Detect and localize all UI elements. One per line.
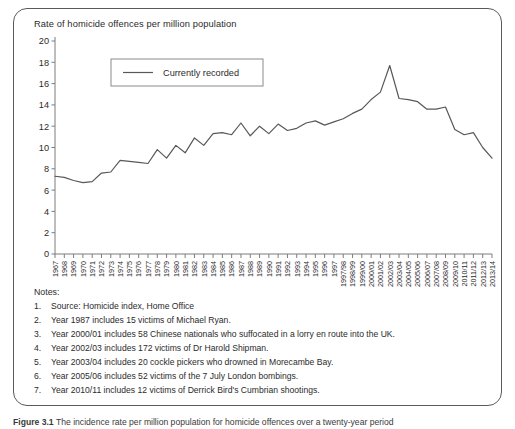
x-tick-label: 2013/14 bbox=[488, 261, 497, 287]
figure-caption-label: Figure 3.1 bbox=[13, 417, 54, 427]
svg-text:8: 8 bbox=[44, 164, 49, 174]
note-text: Year 2005/06 includes 52 victims of the … bbox=[51, 370, 486, 384]
x-tick-label: 1989 bbox=[255, 261, 264, 277]
note-number: 2. bbox=[34, 314, 51, 328]
x-tick-label: 1987 bbox=[237, 261, 246, 277]
x-tick-label: 1974 bbox=[116, 261, 125, 277]
svg-text:10: 10 bbox=[39, 143, 49, 153]
x-tick-label: 2006/07 bbox=[423, 261, 432, 287]
note-number: 1. bbox=[34, 300, 51, 314]
x-tick-label: 1998/99 bbox=[348, 261, 357, 287]
x-tick-label: 1979 bbox=[162, 261, 171, 277]
note-number: 5. bbox=[34, 356, 51, 370]
note-text: Year 1987 includes 15 victims of Michael… bbox=[51, 314, 486, 328]
x-tick-label: 1976 bbox=[134, 261, 143, 277]
x-tick-label: 2000/01 bbox=[367, 261, 376, 287]
figure-panel: Rate of homicide offences per million po… bbox=[13, 8, 502, 406]
line-chart-svg: 02468101214161820 1967196819691970197119… bbox=[14, 9, 503, 299]
x-tick-label: 1968 bbox=[60, 261, 69, 277]
x-tick-label: 1978 bbox=[153, 261, 162, 277]
svg-text:2: 2 bbox=[44, 228, 49, 238]
x-tick-label: 2003/04 bbox=[395, 261, 404, 287]
x-tick-label: 1971 bbox=[88, 261, 97, 277]
x-tick-label: 1991 bbox=[274, 261, 283, 277]
note-item: 1.Source: Homicide index, Home Office bbox=[34, 300, 486, 314]
note-item: 6.Year 2005/06 includes 52 victims of th… bbox=[34, 370, 486, 384]
note-number: 4. bbox=[34, 342, 51, 356]
notes-list: 1.Source: Homicide index, Home Office2.Y… bbox=[34, 300, 486, 397]
chart-legend: Currently recorded bbox=[111, 59, 263, 86]
x-tick-label: 2007/08 bbox=[432, 261, 441, 287]
x-tick-label: 1997 bbox=[330, 261, 339, 277]
x-tick-label: 1995 bbox=[311, 261, 320, 277]
notes-section: Notes: 1.Source: Homicide index, Home Of… bbox=[34, 285, 486, 398]
x-tick-label: 1967 bbox=[51, 261, 60, 277]
y-axis: 02468101214161820 bbox=[39, 36, 55, 259]
note-number: 6. bbox=[34, 370, 51, 384]
x-tick-label: 1975 bbox=[125, 261, 134, 277]
x-tick-label: 2012/13 bbox=[479, 261, 488, 287]
x-tick-label: 2004/05 bbox=[404, 261, 413, 287]
note-item: 4.Year 2002/03 includes 172 victims of D… bbox=[34, 342, 486, 356]
svg-text:14: 14 bbox=[39, 100, 49, 110]
svg-text:4: 4 bbox=[44, 207, 49, 217]
x-tick-label: 1992 bbox=[283, 261, 292, 277]
x-tick-label: 1990 bbox=[265, 261, 274, 277]
notes-heading: Notes: bbox=[34, 285, 486, 299]
x-axis: 1967196819691970197119721973197419751976… bbox=[51, 254, 497, 287]
svg-text:16: 16 bbox=[39, 79, 49, 89]
x-tick-label: 1981 bbox=[181, 261, 190, 277]
svg-text:0: 0 bbox=[44, 249, 49, 259]
x-tick-label: 1977 bbox=[144, 261, 153, 277]
svg-text:20: 20 bbox=[39, 36, 49, 46]
x-tick-label: 1969 bbox=[69, 261, 78, 277]
x-tick-label: 1985 bbox=[218, 261, 227, 277]
x-tick-label: 1973 bbox=[107, 261, 116, 277]
x-tick-label: 2010/11 bbox=[460, 261, 469, 286]
note-number: 3. bbox=[34, 328, 51, 342]
x-tick-label: 1986 bbox=[227, 261, 236, 277]
x-tick-label: 1988 bbox=[246, 261, 255, 277]
svg-text:18: 18 bbox=[39, 58, 49, 68]
note-text: Year 2002/03 includes 172 victims of Dr … bbox=[51, 342, 486, 356]
x-tick-label: 2002/03 bbox=[386, 261, 395, 287]
note-item: 7.Year 2010/11 includes 12 victims of De… bbox=[34, 384, 486, 398]
x-tick-label: 1997/98 bbox=[339, 261, 348, 287]
x-tick-label: 2001/02 bbox=[376, 261, 385, 287]
chart-container: Rate of homicide offences per million po… bbox=[14, 9, 503, 299]
note-item: 2.Year 1987 includes 15 victims of Micha… bbox=[34, 314, 486, 328]
note-text: Year 2010/11 includes 12 victims of Derr… bbox=[51, 384, 486, 398]
figure-caption-text: The incidence rate per million populatio… bbox=[56, 417, 394, 427]
x-tick-label: 2011/12 bbox=[469, 261, 478, 286]
x-tick-label: 1999/00 bbox=[358, 261, 367, 287]
note-item: 5.Year 2003/04 includes 20 cockle picker… bbox=[34, 356, 486, 370]
x-tick-label: 1980 bbox=[172, 261, 181, 277]
x-tick-label: 1984 bbox=[209, 261, 218, 277]
legend-label: Currently recorded bbox=[163, 68, 239, 78]
x-tick-label: 1994 bbox=[302, 261, 311, 277]
x-tick-label: 1993 bbox=[293, 261, 302, 277]
note-text: Year 2003/04 includes 20 cockle pickers … bbox=[51, 356, 486, 370]
note-text: Year 2000/01 includes 58 Chinese nationa… bbox=[51, 328, 486, 342]
x-tick-label: 2008/09 bbox=[441, 261, 450, 287]
note-text: Source: Homicide index, Home Office bbox=[51, 300, 486, 314]
note-item: 3.Year 2000/01 includes 58 Chinese natio… bbox=[34, 328, 486, 342]
x-tick-label: 2005/06 bbox=[413, 261, 422, 287]
svg-text:6: 6 bbox=[44, 186, 49, 196]
x-tick-label: 2009/10 bbox=[451, 261, 460, 287]
svg-text:12: 12 bbox=[39, 122, 49, 132]
x-tick-label: 1983 bbox=[200, 261, 209, 277]
x-tick-label: 1972 bbox=[97, 261, 106, 277]
x-tick-label: 1996 bbox=[320, 261, 329, 277]
figure-caption: Figure 3.1 The incidence rate per millio… bbox=[13, 417, 513, 427]
note-number: 7. bbox=[34, 384, 51, 398]
x-tick-label: 1970 bbox=[79, 261, 88, 277]
x-tick-label: 1982 bbox=[190, 261, 199, 277]
